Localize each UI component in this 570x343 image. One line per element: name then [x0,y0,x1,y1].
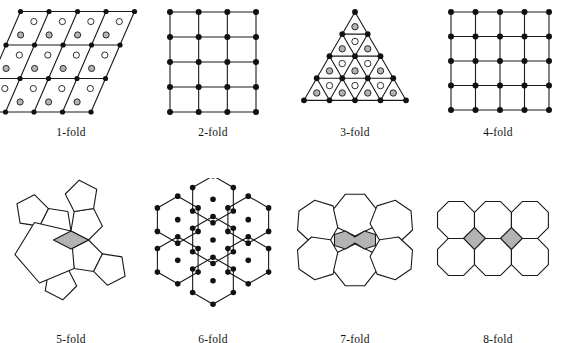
lattice-vertex-dot [365,75,371,81]
lattice-vertex-dot [301,97,307,103]
lattice-vertex-dot [210,254,216,260]
motif-gray-circle [365,46,371,52]
lattice-vertex-dot [266,205,272,211]
lattice-vertex-dot [497,9,503,15]
label-1-fold: 1-fold [0,126,142,138]
motif-white-circle [377,82,383,88]
lattice-vertex-dot [245,193,251,199]
hexagon-center-dot [175,217,181,223]
lattice-vertex-dot [231,249,237,255]
panel-3-fold: 3-fold [284,0,426,148]
lattice-vertex-dot [195,246,201,252]
lattice-vertex-dot [190,208,196,214]
lattice-vertex-dot [3,42,8,47]
hexagon-center-dot [175,258,181,264]
lattice-vertex-dot [352,53,358,59]
diagram-4-fold [426,0,570,124]
diagram-1-fold [0,0,142,124]
lattice-vertex-dot [74,76,79,81]
label-6-fold: 6-fold [142,333,284,343]
lattice-vertex-dot [190,185,196,191]
lattice-vertex-dot [155,269,161,275]
motif-gray-circle [352,68,358,74]
lattice-vertex-dot [17,76,22,81]
label-8-fold: 8-fold [426,333,570,343]
motif-gray-circle [326,68,332,74]
heptagon-tile [298,200,340,243]
lattice-vertex-dot [522,83,528,89]
lattice-vertex-dot [196,84,202,90]
lattice-vertex-dot [365,31,371,37]
motif-white-circle [88,18,94,24]
lattice-vertex-dot [32,42,37,47]
motif-gray-circle [46,32,52,38]
lattice-vertex-dot [175,234,181,240]
lattice-vertex-dot [231,208,237,214]
lattice-vertex-dot [352,9,358,15]
lattice-vertex-dot [253,9,259,15]
lattice-vertex-dot [231,225,237,231]
lattice-vertex-dot [245,240,251,246]
lattice-vertex-dot [522,58,528,64]
lattice-vertex-dot [46,9,51,14]
lattice-vertex-dot [245,234,251,240]
motif-gray-circle [352,24,358,30]
panel-6-fold: 6-fold [142,178,284,343]
heptagon-tile [370,237,412,280]
motif-white-circle [31,18,37,24]
lattice-vertex-dot [210,261,216,267]
lattice-line-column [0,12,21,113]
diagram-6-fold [142,178,284,308]
hexagon-center-dot [245,258,251,264]
motif-white-circle [2,85,8,91]
lattice-vertex-dot [448,58,454,64]
motif-gray-circle [390,90,396,96]
lattice-vertex-dot [231,185,237,191]
lattice-vertex-dot [522,34,528,40]
motif-white-circle [339,60,345,66]
label-5-fold: 5-fold [0,333,142,343]
lattice-vertex-dot [448,107,454,113]
lattice-vertex-dot [473,9,479,15]
lattice-vertex-dot [175,281,181,287]
lattice-line-column [34,12,78,113]
lattice-vertex-dot [167,84,173,90]
motif-white-circle [45,52,51,58]
lattice-vertex-dot [448,9,454,15]
lattice-vertex-dot [190,266,196,272]
lattice-vertex-dot [497,83,503,89]
lattice-vertex-dot [175,193,181,199]
label-2-fold: 2-fold [142,126,284,138]
lattice-vertex-dot [103,9,108,14]
motif-gray-circle [339,46,345,52]
hexagon-center-dot [245,217,251,223]
lattice-vertex-dot [210,301,216,307]
lattice-vertex-dot [195,229,201,235]
lattice-vertex-dot [546,9,552,15]
panel-5-fold: 5-fold [0,178,142,343]
lattice-vertex-dot [195,205,201,211]
diagram-3-fold [284,0,426,124]
lattice-vertex-dot [390,75,396,81]
motif-white-circle [16,52,22,58]
motif-white-circle [116,18,122,24]
lattice-vertex-dot [497,34,503,40]
lattice-vertex-dot [378,53,384,59]
lattice-vertex-dot [253,59,259,65]
lattice-vertex-dot [497,107,503,113]
lattice-vertex-dot [253,34,259,40]
lattice-vertex-dot [75,9,80,14]
label-7-fold: 7-fold [284,333,426,343]
pentagon-tile [65,180,96,211]
lattice-vertex-dot [60,109,65,114]
lattice-vertex-dot [46,76,51,81]
motif-gray-circle [60,65,66,71]
lattice-vertex-dot [497,58,503,64]
motif-white-circle [352,38,358,44]
motif-white-circle [59,85,65,91]
motif-gray-circle [75,32,81,38]
lattice-line-column [6,12,50,113]
lattice-vertex-dot [167,9,173,15]
panel-8-fold: 8-fold [426,178,570,343]
lattice-vertex-dot [327,97,333,103]
